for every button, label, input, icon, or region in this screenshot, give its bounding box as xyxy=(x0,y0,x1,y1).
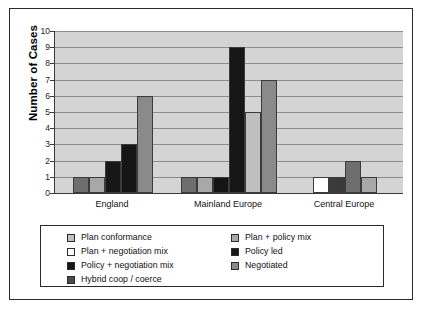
x-axis-label: England xyxy=(54,199,170,209)
y-tick-label: 8 xyxy=(24,59,50,68)
legend-item: Negotiated xyxy=(231,259,381,273)
y-tick-label: 4 xyxy=(24,124,50,133)
legend-item: Policy led xyxy=(231,245,381,259)
bar xyxy=(73,177,89,193)
x-axis-label: Central Europe xyxy=(286,199,402,209)
x-axis-label: Mainland Europe xyxy=(170,199,286,209)
legend-column-right: Plan + policy mixPolicy ledNegotiated xyxy=(231,231,381,273)
legend-swatch xyxy=(67,262,75,270)
legend-label: Plan + negotiation mix xyxy=(81,247,168,256)
y-tick-label: 3 xyxy=(24,140,50,149)
y-tick-label: 2 xyxy=(24,157,50,166)
legend-item: Plan + policy mix xyxy=(231,231,381,245)
legend-swatch xyxy=(231,234,239,242)
y-tick-label: 6 xyxy=(24,92,50,101)
legend-swatch xyxy=(231,248,239,256)
bar xyxy=(197,177,213,193)
bar xyxy=(329,177,345,193)
bar xyxy=(213,177,229,193)
y-tick-label: 1 xyxy=(24,173,50,182)
chart-figure: Number of Cases 109876543210 EnglandMain… xyxy=(9,8,413,300)
legend-label: Plan conformance xyxy=(81,233,152,242)
legend-label: Negotiated xyxy=(245,261,288,270)
legend-swatch xyxy=(67,248,75,256)
y-tick-label: 10 xyxy=(24,27,50,36)
bar xyxy=(245,112,261,193)
legend-item: Policy + negotiation mix xyxy=(67,259,227,273)
legend-swatch xyxy=(67,276,75,284)
bar xyxy=(313,177,329,193)
legend-swatch xyxy=(231,262,239,270)
legend-label: Plan + policy mix xyxy=(245,233,311,242)
plot-area xyxy=(54,31,403,194)
y-tick-label: 7 xyxy=(24,76,50,85)
bar xyxy=(261,80,277,193)
bar xyxy=(181,177,197,193)
y-axis-ticks: 109876543210 xyxy=(20,31,50,193)
y-tick-label: 0 xyxy=(24,189,50,198)
x-axis-labels: EnglandMainland EuropeCentral Europe xyxy=(54,199,402,215)
legend-label: Policy led xyxy=(245,247,283,256)
legend-label: Hybrid coop / coerce xyxy=(81,275,162,284)
legend-swatch xyxy=(67,234,75,242)
plot-block: Number of Cases 109876543210 EnglandMain… xyxy=(10,9,414,205)
legend-column-left: Plan conformancePlan + negotiation mixPo… xyxy=(67,231,227,287)
bar-series-container xyxy=(55,31,403,193)
legend-item: Hybrid coop / coerce xyxy=(67,273,227,287)
bar xyxy=(229,47,245,193)
legend-label: Policy + negotiation mix xyxy=(81,261,174,270)
bar xyxy=(89,177,105,193)
chart-legend: Plan conformancePlan + negotiation mixPo… xyxy=(40,225,384,287)
y-tick-label: 5 xyxy=(24,108,50,117)
bar xyxy=(137,96,153,193)
bar xyxy=(121,144,137,193)
y-tick-label: 9 xyxy=(24,43,50,52)
legend-item: Plan conformance xyxy=(67,231,227,245)
legend-item: Plan + negotiation mix xyxy=(67,245,227,259)
bar xyxy=(361,177,377,193)
bar xyxy=(105,161,121,193)
bar xyxy=(345,161,361,193)
